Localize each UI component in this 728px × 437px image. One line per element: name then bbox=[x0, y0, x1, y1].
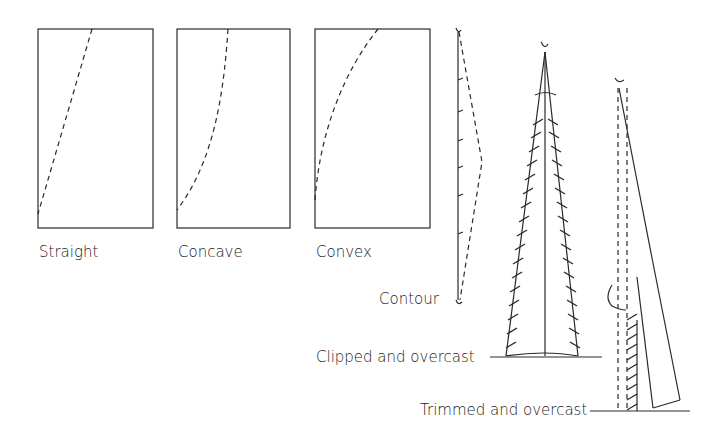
label-concave: Concave bbox=[178, 243, 243, 261]
panel-convex: Convex bbox=[315, 29, 430, 261]
label-clipped: Clipped and overcast bbox=[316, 348, 475, 366]
panel-frame bbox=[38, 29, 153, 228]
dart-line-convex bbox=[315, 29, 378, 200]
dart-line-concave bbox=[177, 29, 228, 210]
label-convex: Convex bbox=[316, 243, 372, 261]
overcast-right bbox=[548, 119, 580, 348]
label-contour: Contour bbox=[379, 290, 440, 308]
panel-frame bbox=[315, 29, 430, 228]
trim-callout bbox=[608, 285, 626, 310]
trimmed-cut-line bbox=[619, 88, 680, 400]
seam-diagram: Straight Concave Convex Contour bbox=[0, 0, 728, 437]
clipped-dart: Clipped and overcast bbox=[316, 42, 602, 366]
panel-straight: Straight bbox=[38, 29, 153, 261]
label-trimmed: Trimmed and overcast bbox=[420, 401, 587, 419]
overcast-trimmed bbox=[627, 314, 637, 410]
panel-frame bbox=[177, 29, 290, 228]
label-straight: Straight bbox=[39, 243, 98, 261]
dart-line-straight bbox=[38, 29, 92, 214]
trimmed-dart: Trimmed and overcast bbox=[420, 78, 690, 419]
panel-concave: Concave bbox=[177, 29, 290, 261]
